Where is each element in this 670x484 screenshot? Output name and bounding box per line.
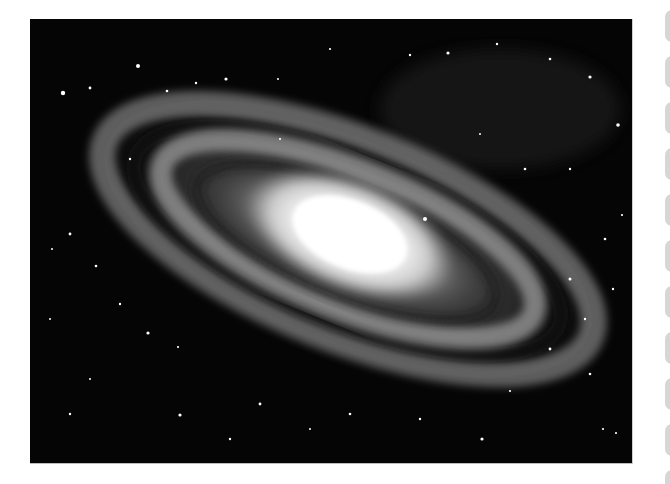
- side-tile-6[interactable]: [665, 240, 670, 272]
- side-tile-8[interactable]: [665, 332, 670, 364]
- side-tile-2[interactable]: [665, 56, 670, 88]
- side-tile-10[interactable]: [665, 424, 670, 456]
- side-tile-9[interactable]: [665, 378, 670, 410]
- side-thumbnail-strip: [665, 0, 670, 484]
- side-tile-3[interactable]: [665, 102, 670, 134]
- side-tile-1[interactable]: [665, 10, 670, 42]
- galaxy-graphic: [30, 19, 632, 463]
- side-tile-7[interactable]: [665, 286, 670, 318]
- side-tile-5[interactable]: [665, 194, 670, 226]
- side-tile-11[interactable]: [665, 470, 670, 484]
- galaxy-image: Grayscale photograph of a tilted spiral …: [30, 19, 633, 464]
- side-tile-4[interactable]: [665, 148, 670, 180]
- page: Grayscale photograph of a tilted spiral …: [0, 0, 670, 484]
